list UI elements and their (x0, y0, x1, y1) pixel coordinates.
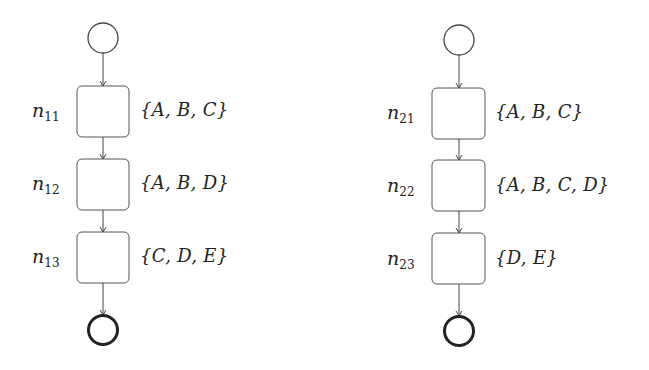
node-subscript: 11 (44, 110, 59, 124)
node-set-n12: {A, B, D} (140, 172, 229, 194)
node-label-n21: n21 (387, 101, 415, 130)
node-set-n11: {A, B, C} (140, 99, 229, 121)
node-subscript: 22 (399, 185, 414, 199)
node-n23[interactable] (432, 233, 485, 284)
node-n13[interactable] (77, 232, 129, 283)
node-label-n23: n23 (387, 247, 415, 276)
node-name: n (32, 245, 44, 267)
node-subscript: 13 (44, 256, 59, 270)
node-label-n12: n12 (32, 172, 60, 201)
node-set-n22: {A, B, C, D} (495, 174, 610, 196)
node-subscript: 21 (399, 112, 414, 126)
node-n21[interactable] (432, 88, 485, 139)
node-n22[interactable] (432, 160, 485, 211)
node-set-n23: {D, E} (495, 247, 558, 269)
node-name: n (387, 101, 399, 123)
node-set-n21: {A, B, C} (495, 101, 584, 123)
node-label-n22: n22 (387, 174, 415, 203)
node-label-n13: n13 (32, 245, 60, 274)
node-subscript: 12 (44, 183, 59, 197)
node-name: n (387, 174, 399, 196)
start-event-1[interactable] (88, 23, 118, 53)
end-event-1[interactable] (89, 316, 118, 345)
node-subscript: 23 (399, 258, 414, 272)
node-n11[interactable] (77, 86, 129, 137)
node-label-n11: n11 (32, 99, 60, 128)
flow-1 (77, 23, 129, 345)
node-n12[interactable] (77, 159, 129, 210)
end-event-2[interactable] (445, 317, 474, 346)
start-event-2[interactable] (444, 25, 474, 55)
node-name: n (32, 99, 44, 121)
node-set-n13: {C, D, E} (140, 245, 229, 267)
node-name: n (387, 247, 399, 269)
node-name: n (32, 172, 44, 194)
flow-2 (432, 25, 485, 346)
